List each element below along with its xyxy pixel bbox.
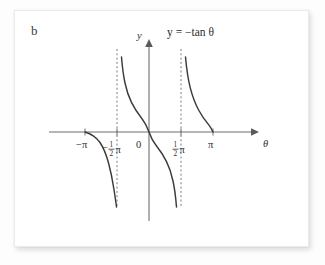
figure-card: b	[14, 10, 309, 247]
y-axis-label: y	[136, 30, 142, 41]
minus-half-pi-sign: −	[102, 142, 108, 153]
half-pi-numerator: 1	[174, 140, 178, 149]
figure-page: b	[0, 0, 325, 265]
minus-half-pi-denominator: 2	[110, 149, 114, 158]
tangent-plot: y = −tan θ y θ 0 −π − 1 2 π 1 2 π	[15, 11, 308, 246]
x-axis-arrowhead	[251, 128, 259, 136]
half-pi-suffix: π	[180, 144, 186, 155]
y-axis-arrowhead	[145, 39, 153, 47]
xtick-label-pi: π	[208, 139, 214, 150]
minus-half-pi-numerator: 1	[110, 140, 114, 149]
half-pi-denominator: 2	[174, 149, 178, 158]
xtick-label-half-pi: 1 2 π	[173, 140, 186, 158]
axes-group	[49, 39, 259, 221]
xtick-label-minus-pi: −π	[76, 139, 88, 150]
curve-right-branch	[186, 57, 214, 132]
minus-half-pi-suffix: π	[116, 144, 122, 155]
x-axis-label: θ	[263, 138, 268, 149]
plot-title: y = −tan θ	[167, 26, 214, 39]
xtick-label-minus-half-pi: − 1 2 π	[102, 140, 122, 158]
origin-label: 0	[136, 139, 141, 150]
